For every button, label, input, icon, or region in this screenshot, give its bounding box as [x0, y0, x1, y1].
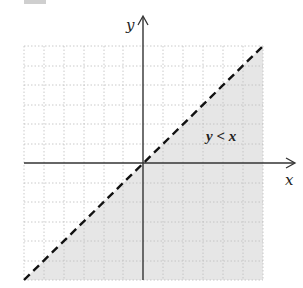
x-axis-label: x	[285, 171, 294, 189]
region-label: y < x	[204, 128, 237, 144]
y-axis-label: y	[125, 16, 135, 34]
inequality-graph: y x y < x	[0, 0, 303, 288]
